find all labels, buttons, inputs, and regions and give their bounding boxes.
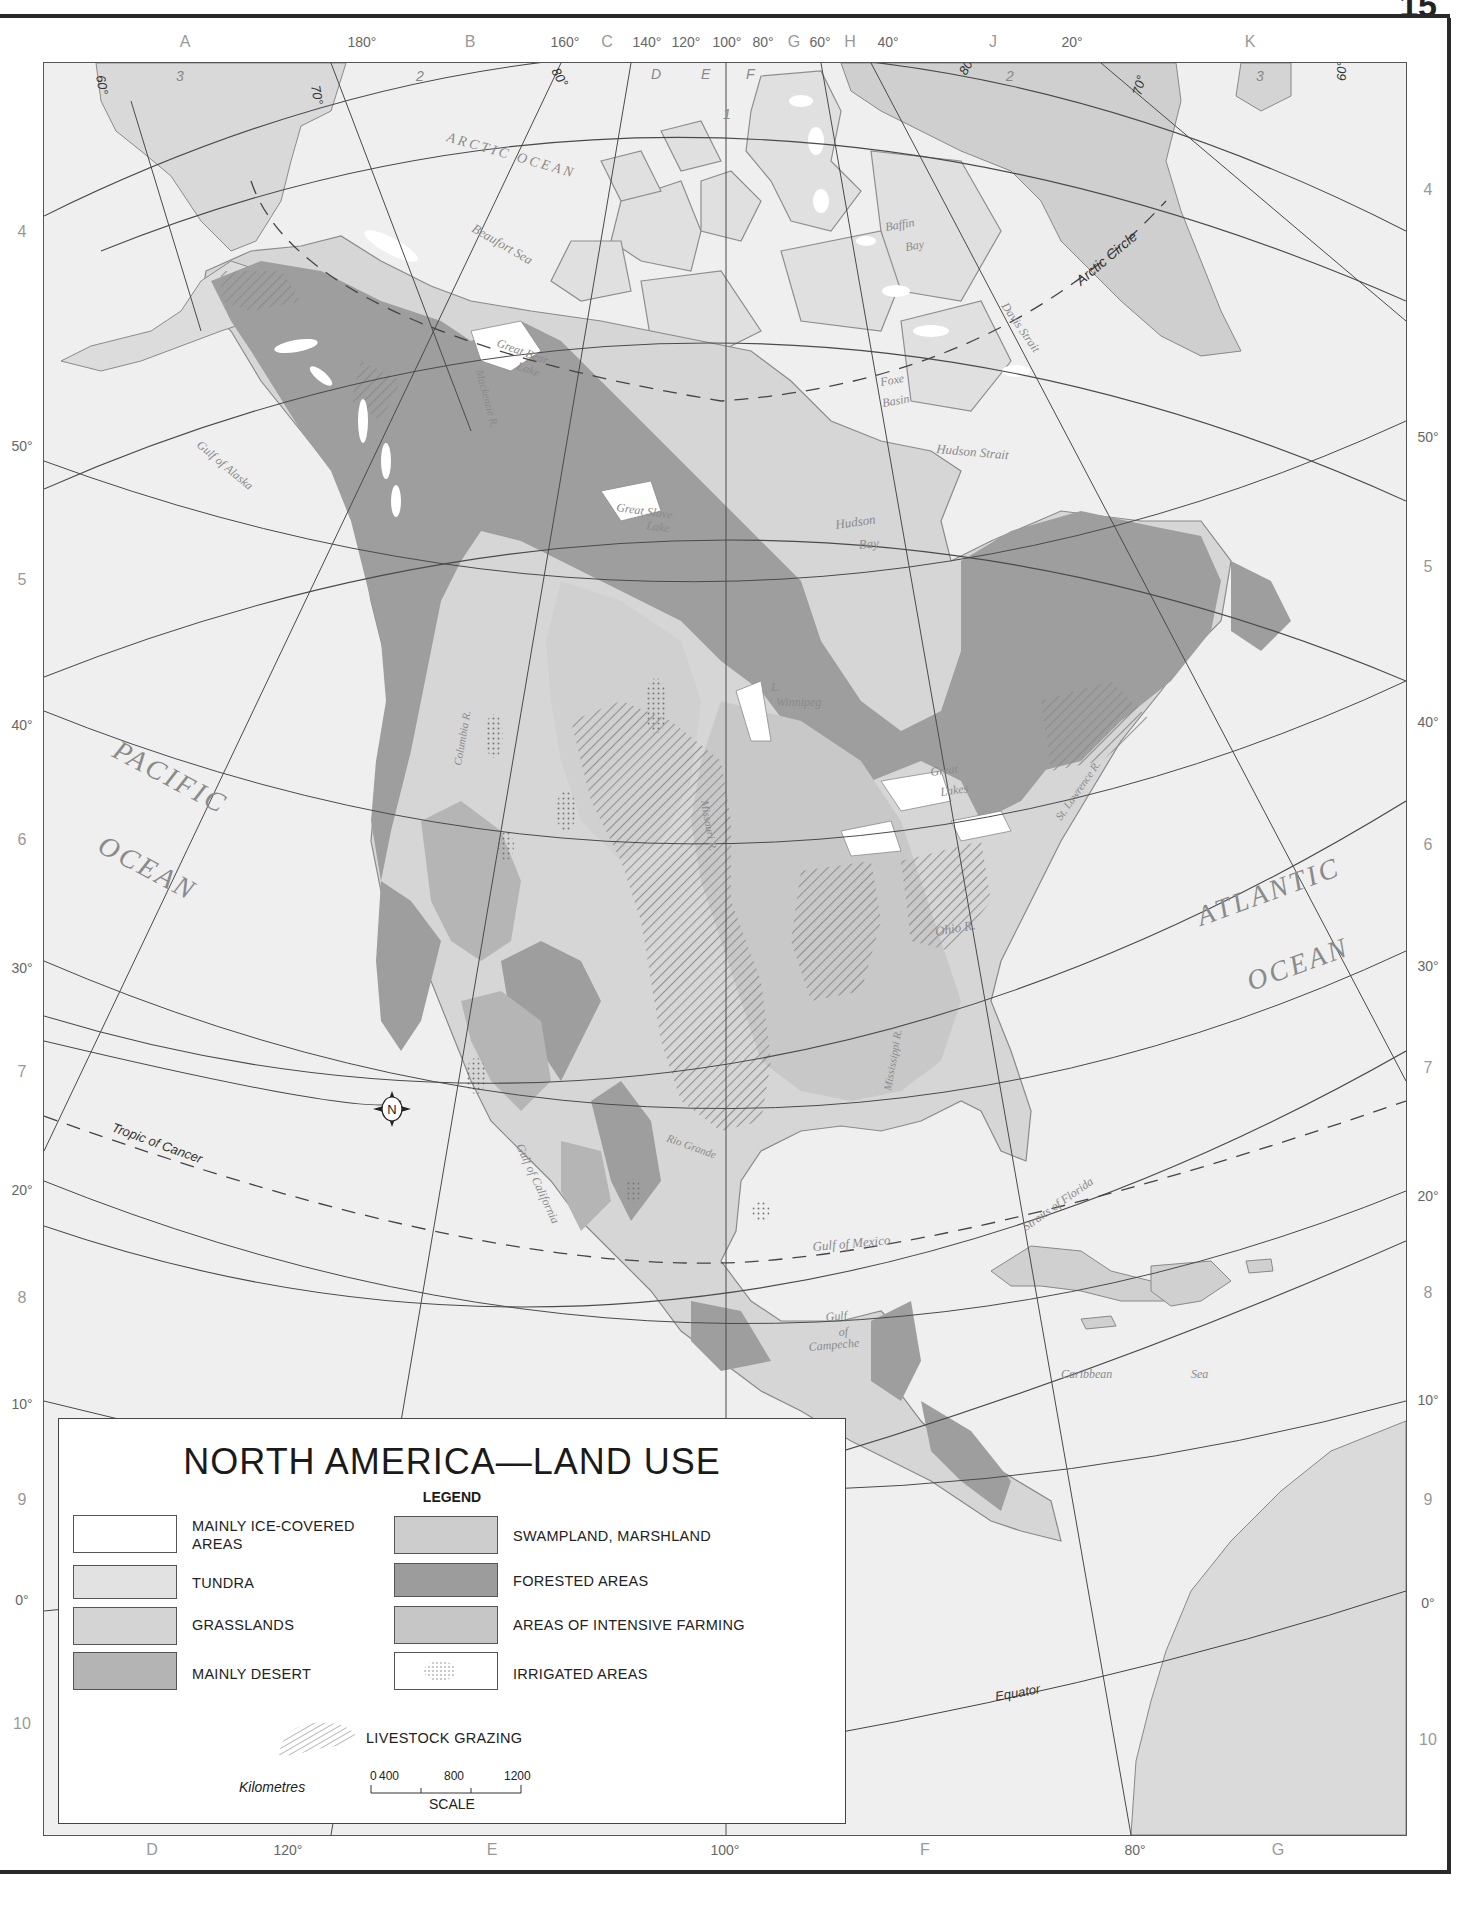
irrigated-dots-icon <box>395 1653 495 1687</box>
coordinate-label: C <box>601 33 613 51</box>
coordinate-label: 10 <box>13 1715 31 1733</box>
coordinate-label: 9 <box>18 1491 27 1509</box>
label-desert: MAINLY DESERT <box>192 1665 311 1683</box>
coordinate-label: A <box>180 33 191 51</box>
caribbean-sea-label: Caribbean <box>1061 1367 1112 1381</box>
coordinate-label: 40° <box>877 34 898 50</box>
coordinate-label: 5 <box>18 571 27 589</box>
label-line-1: MAINLY ICE-COVERED <box>192 1517 355 1535</box>
coordinate-label: 10° <box>11 1396 32 1412</box>
page-number: 15 <box>1399 0 1437 25</box>
coordinate-label: 4 <box>1424 181 1433 199</box>
scale-caption: SCALE <box>429 1796 475 1812</box>
coordinate-label: 30° <box>1417 958 1438 974</box>
coordinate-label: 160° <box>551 34 580 50</box>
coordinate-label: 40° <box>11 717 32 733</box>
coordinate-label: 0° <box>15 1592 28 1608</box>
swatch-irrigated <box>394 1652 498 1690</box>
inner-grid-label: 1 <box>723 106 731 122</box>
bottom-border-rule <box>0 1870 1451 1874</box>
coordinate-label: 7 <box>1424 1059 1433 1077</box>
coordinate-label: 100° <box>713 34 742 50</box>
coordinate-label: B <box>465 33 476 51</box>
caribbean-sea-label-2: Sea <box>1191 1367 1208 1381</box>
swatch-forested <box>394 1563 498 1597</box>
legend-heading: LEGEND <box>59 1489 845 1505</box>
inner-grid-label: 3 <box>1256 68 1264 84</box>
coordinate-label: 8 <box>18 1289 27 1307</box>
legend-panel: NORTH AMERICA—LAND USE LEGEND MAINLY ICE… <box>58 1418 846 1824</box>
coordinate-label: 5 <box>1424 558 1433 576</box>
coordinate-label: 80° <box>1124 1842 1145 1858</box>
map-title: NORTH AMERICA—LAND USE <box>59 1441 845 1483</box>
coordinate-label: 6 <box>1424 836 1433 854</box>
scale-tick-400: 400 <box>379 1769 399 1783</box>
label-ice-covered: MAINLY ICE-COVERED AREAS <box>192 1517 355 1553</box>
swatch-desert <box>73 1652 177 1690</box>
swatch-ice-covered <box>73 1515 177 1553</box>
inner-grid-label: D <box>651 66 661 82</box>
inner-grid-label: F <box>746 66 756 82</box>
swatch-swampland <box>394 1516 498 1554</box>
right-border-rule <box>1447 18 1451 1873</box>
coordinate-label: 180° <box>348 34 377 50</box>
top-border-rule <box>0 14 1450 18</box>
coordinate-label: 140° <box>633 34 662 50</box>
label-grasslands: GRASSLANDS <box>192 1616 294 1634</box>
coordinate-label: 20° <box>1417 1188 1438 1204</box>
coordinate-label: J <box>989 33 997 51</box>
coordinate-label: 20° <box>11 1182 32 1198</box>
coordinate-label: F <box>920 1841 930 1859</box>
coordinate-label: 120° <box>672 34 701 50</box>
coordinate-label: K <box>1245 33 1256 51</box>
scale-tick-0: 0 <box>370 1769 377 1783</box>
swatch-tundra <box>73 1565 177 1599</box>
coordinate-label: G <box>1272 1841 1284 1859</box>
scale-line <box>369 1783 529 1797</box>
scale-unit-label: Kilometres <box>239 1779 305 1795</box>
scale-tick-1200: 1200 <box>504 1769 531 1783</box>
coordinate-label: 7 <box>18 1063 27 1081</box>
coordinate-label: D <box>146 1841 158 1859</box>
coordinate-label: 50° <box>11 438 32 454</box>
coordinate-label: 10° <box>1417 1392 1438 1408</box>
coordinate-label: G <box>788 33 800 51</box>
label-forested: FORESTED AREAS <box>513 1572 649 1590</box>
coordinate-label: 60° <box>809 34 830 50</box>
inner-grid-label: 2 <box>1005 68 1014 84</box>
svg-text:N: N <box>387 1102 396 1117</box>
coordinate-label: 6 <box>18 831 27 849</box>
inner-grid-label: 3 <box>176 68 184 84</box>
livestock-grazing-hatch-icon <box>274 1717 364 1761</box>
inner-grid-label: 2 <box>415 68 424 84</box>
inner-degree-label: 60° <box>1334 63 1349 81</box>
coordinate-label: 40° <box>1417 714 1438 730</box>
lake-winnipeg-label: L. <box>770 680 781 694</box>
coordinate-label: 9 <box>1424 1491 1433 1509</box>
coordinate-label: E <box>487 1841 498 1859</box>
label-tundra: TUNDRA <box>192 1574 254 1592</box>
label-swampland: SWAMPLAND, MARSHLAND <box>513 1527 711 1545</box>
scale-tick-800: 800 <box>444 1769 464 1783</box>
swatch-intensive-farming <box>394 1606 498 1644</box>
coordinate-label: 0° <box>1421 1595 1434 1611</box>
coordinate-label: H <box>844 33 856 51</box>
swatch-grasslands <box>73 1607 177 1645</box>
gulf-of-campeche-label: Gulf <box>825 1308 849 1324</box>
label-intensive-farming: AREAS OF INTENSIVE FARMING <box>513 1616 745 1634</box>
label-irrigated: IRRIGATED AREAS <box>513 1665 648 1683</box>
inner-grid-label: E <box>701 66 711 82</box>
coordinate-label: 50° <box>1417 429 1438 445</box>
coordinate-label: 8 <box>1424 1284 1433 1302</box>
coordinate-label: 120° <box>274 1842 303 1858</box>
lake-winnipeg-label-2: Winnipeg <box>776 695 821 709</box>
coordinate-label: 30° <box>11 960 32 976</box>
coordinate-label: 10 <box>1419 1731 1437 1749</box>
label-line-2: AREAS <box>192 1535 355 1553</box>
coordinate-label: 100° <box>711 1842 740 1858</box>
coordinate-label: 4 <box>18 223 27 241</box>
hudson-bay-label-2: Bay <box>858 535 880 552</box>
coordinate-label: 20° <box>1061 34 1082 50</box>
label-livestock-grazing: LIVESTOCK GRAZING <box>366 1729 522 1747</box>
coordinate-label: 80° <box>752 34 773 50</box>
